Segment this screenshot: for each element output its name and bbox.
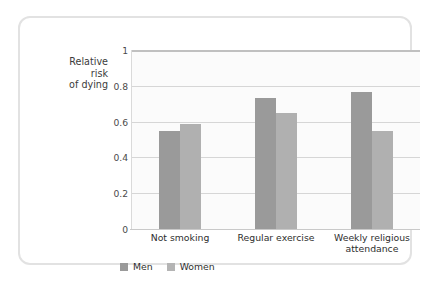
y-axis-line <box>131 50 132 229</box>
y-axis-tick-label: 1 <box>102 45 128 56</box>
x-axis-category-label: Regular exercise <box>228 232 324 243</box>
bar-men <box>255 98 276 229</box>
legend-swatch-icon <box>120 263 128 271</box>
y-axis-tick-label: 0 <box>102 224 128 235</box>
legend-label: Women <box>180 261 215 272</box>
bar-women <box>372 131 393 229</box>
bar-men <box>159 131 180 229</box>
legend-item: Women <box>167 261 215 272</box>
y-axis-tick-label: 0.4 <box>102 152 128 163</box>
chart-legend: MenWomen <box>120 261 215 272</box>
y-axis-title: Relative risk of dying <box>46 56 108 91</box>
x-axis-category-label: Weekly religious attendance <box>324 232 420 255</box>
y-axis-tick-label: 0.6 <box>102 116 128 127</box>
legend-label: Men <box>133 261 153 272</box>
bar-women <box>276 113 297 229</box>
gridline <box>132 86 420 87</box>
y-axis-tick-label: 0.8 <box>102 80 128 91</box>
legend-swatch-icon <box>167 263 175 271</box>
x-axis-category-labels: Not smokingRegular exerciseWeekly religi… <box>132 232 420 262</box>
y-axis-tick-labels: 10.80.60.40.20 <box>100 50 128 229</box>
figure-frame: Relative risk of dying 10.80.60.40.20 No… <box>18 16 412 265</box>
plot-area <box>132 50 420 229</box>
bar-women <box>180 124 201 229</box>
y-axis-tick-label: 0.2 <box>102 188 128 199</box>
legend-item: Men <box>120 261 153 272</box>
gridline <box>132 50 420 52</box>
chart-figure: Relative risk of dying 10.80.60.40.20 No… <box>0 0 434 286</box>
x-axis-category-label: Not smoking <box>132 232 228 243</box>
bar-men <box>351 92 372 229</box>
